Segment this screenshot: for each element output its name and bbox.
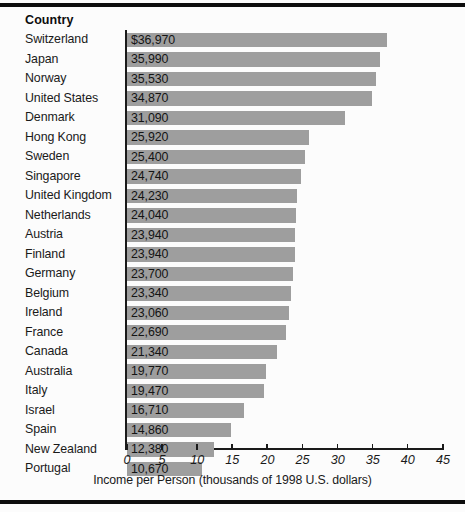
bar-value-label: 23,940: [131, 228, 168, 243]
bar-value-label: $36,970: [131, 33, 175, 48]
country-label: Japan: [25, 52, 58, 66]
x-axis-tick-label: 10: [190, 453, 204, 467]
country-label: Belgium: [25, 286, 69, 300]
bar-value-label: 23,940: [131, 247, 168, 262]
x-axis-tick-label: 15: [225, 453, 239, 467]
bottom-divider-rule: [0, 500, 465, 504]
bar-value-label: 16,710: [131, 403, 168, 418]
bar-row: Switzerland$36,970: [0, 31, 465, 51]
bar-value-label: 19,470: [131, 384, 168, 399]
bar-row: Finland23,940: [0, 246, 465, 266]
country-label: Singapore: [25, 169, 81, 183]
x-axis-tick: [372, 444, 374, 450]
bar-value-label: 24,230: [131, 189, 168, 204]
bar-value-label: 35,530: [131, 72, 168, 87]
x-axis-tick-label: 45: [436, 453, 450, 467]
country-label: New Zealand: [25, 442, 97, 456]
x-axis-tick-label: 0: [123, 453, 130, 467]
bar-value-label: 24,040: [131, 208, 168, 223]
bar-row: Sweden25,400: [0, 148, 465, 168]
bar-value-label: 23,700: [131, 267, 168, 282]
bar-value-label: 31,090: [131, 111, 168, 126]
country-label: Sweden: [25, 149, 69, 163]
country-label: Switzerland: [25, 32, 88, 46]
country-label: Australia: [25, 364, 72, 378]
x-axis-tick: [196, 444, 198, 450]
country-label: Spain: [25, 422, 56, 436]
bar-row: Austria23,940: [0, 226, 465, 246]
bar-row: Australia19,770: [0, 363, 465, 383]
country-label: Hong Kong: [25, 130, 86, 144]
bar-row: France22,690: [0, 324, 465, 344]
bar-value-label: 14,860: [131, 423, 168, 438]
country-label: Ireland: [25, 305, 62, 319]
country-label: Austria: [25, 227, 63, 241]
x-axis-tick: [442, 444, 444, 450]
bar-value-label: 23,060: [131, 306, 168, 321]
bar-value-label: 25,400: [131, 150, 168, 165]
bar-value-label: 35,990: [131, 52, 168, 67]
bar-value-label: 34,870: [131, 91, 168, 106]
country-label: Germany: [25, 266, 75, 280]
bar-row: Japan35,990: [0, 51, 465, 71]
bar-row: Netherlands24,040: [0, 207, 465, 227]
country-label: France: [25, 325, 63, 339]
x-axis-tick-label: 35: [366, 453, 380, 467]
x-axis-tick: [266, 444, 268, 450]
country-label: Netherlands: [25, 208, 91, 222]
bar-row: Israel16,710: [0, 402, 465, 422]
x-axis-tick-label: 20: [260, 453, 274, 467]
country-label: Israel: [25, 403, 55, 417]
country-label: Norway: [25, 71, 66, 85]
bar-row: Spain14,860: [0, 421, 465, 441]
top-divider-rule: [0, 3, 465, 7]
bar-value-label: 19,770: [131, 364, 168, 379]
bar-row: Belgium23,340: [0, 285, 465, 305]
country-label: Denmark: [25, 110, 75, 124]
x-axis-caption: Income per Person (thousands of 1998 U.S…: [0, 473, 465, 487]
bar-value-label: 21,340: [131, 345, 168, 360]
x-axis-tick: [231, 444, 233, 450]
country-column-header: Country: [25, 13, 74, 27]
x-axis-tick: [407, 444, 409, 450]
x-axis-tick: [337, 444, 339, 450]
bar-row: Hong Kong25,920: [0, 129, 465, 149]
x-axis-tick-label: 5: [159, 453, 166, 467]
x-axis-tick: [126, 444, 128, 450]
bar-value-label: 22,690: [131, 325, 168, 340]
country-label: United Kingdom: [25, 188, 112, 202]
bar-row: Norway35,530: [0, 70, 465, 90]
bar-row: Singapore24,740: [0, 168, 465, 188]
bar-value-label: 24,740: [131, 169, 168, 184]
bar-row: United States34,870: [0, 90, 465, 110]
x-axis-tick: [161, 444, 163, 450]
bar-value-label: 23,340: [131, 286, 168, 301]
plot-area: Switzerland$36,970Japan35,990Norway35,53…: [0, 30, 465, 450]
income-per-person-bar-chart: Country Switzerland$36,970Japan35,990Nor…: [0, 0, 465, 512]
bar-row: United Kingdom24,230: [0, 187, 465, 207]
x-axis-tick-label: 25: [296, 453, 310, 467]
bar-row: Ireland23,060: [0, 304, 465, 324]
bar-row: Denmark31,090: [0, 109, 465, 129]
x-axis-tick-label: 30: [331, 453, 345, 467]
bar-row: Italy19,470: [0, 382, 465, 402]
bar-row: Canada21,340: [0, 343, 465, 363]
country-label: Canada: [25, 344, 68, 358]
x-axis-tick-label: 40: [401, 453, 415, 467]
country-label: Italy: [25, 383, 47, 397]
x-axis-tick: [302, 444, 304, 450]
bar-row: Germany23,700: [0, 265, 465, 285]
country-label: Finland: [25, 247, 65, 261]
bar-value-label: 25,920: [131, 130, 168, 145]
country-label: United States: [25, 91, 98, 105]
